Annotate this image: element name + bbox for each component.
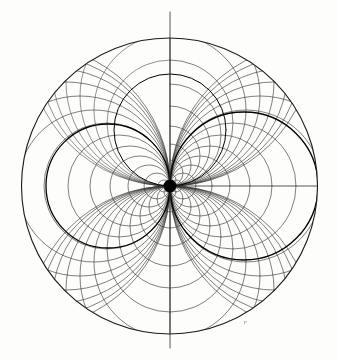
node-mark-label: e: [174, 208, 176, 213]
edge-mark-label: F: [244, 320, 247, 325]
coaxial-circles-diagram: [0, 0, 338, 360]
figure-container: e F: [0, 0, 338, 360]
